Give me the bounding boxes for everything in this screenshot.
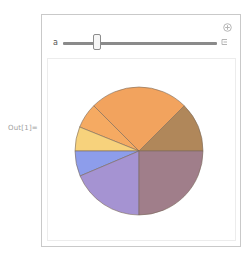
bracket-icon[interactable] <box>221 39 228 45</box>
controls-row: a <box>42 15 240 59</box>
plus-circle-icon[interactable] <box>223 23 232 32</box>
pie-slice <box>139 151 203 215</box>
output-content-panel <box>47 58 236 241</box>
output-label: Out[1]= <box>8 124 38 132</box>
pie-chart-graphic <box>74 86 204 216</box>
manipulate-panel: a <box>41 14 241 247</box>
slider-track[interactable] <box>63 42 217 45</box>
pie-chart <box>74 86 204 216</box>
slider-thumb[interactable] <box>93 34 101 50</box>
slider-variable-label: a <box>53 38 58 47</box>
